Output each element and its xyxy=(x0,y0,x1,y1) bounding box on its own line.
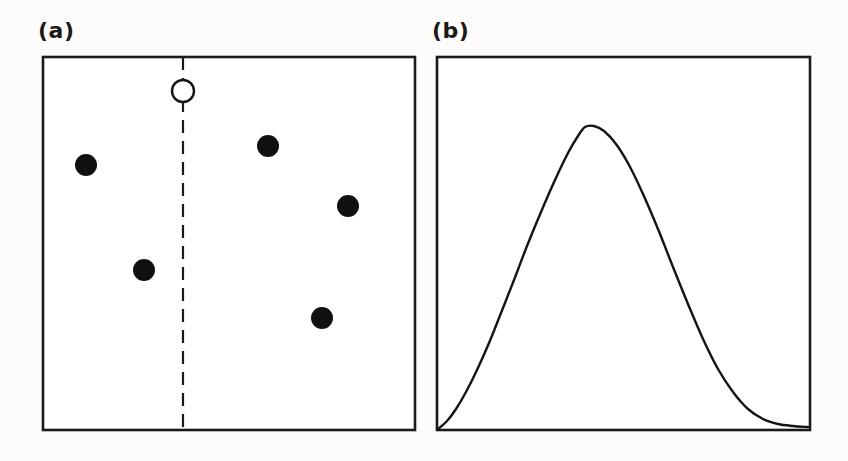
panel-b-frame xyxy=(437,57,810,430)
panel-b-distribution-plot xyxy=(0,0,848,461)
figure-container: (a) (b) xyxy=(0,0,848,461)
